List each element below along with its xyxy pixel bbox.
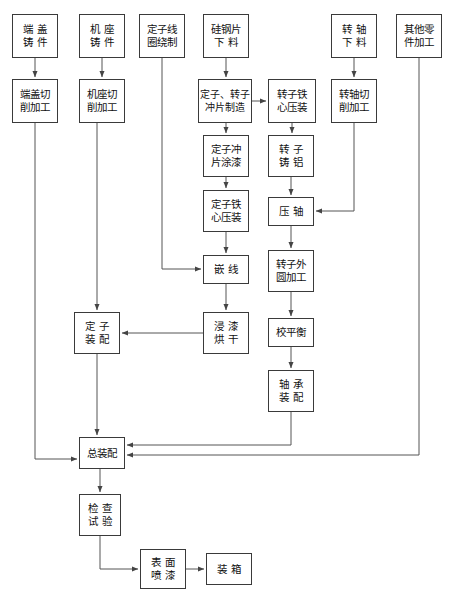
node-jizuo-zhujian[interactable]: 机 座铸 件 — [79, 14, 125, 58]
node-label-line: 试 验 — [88, 515, 112, 528]
node-dingzi-chongpian-tuqi[interactable]: 定子冲片涂漆 — [203, 135, 249, 177]
node-label-line: 圆加工 — [276, 271, 307, 284]
node-label-line: 端 盖 — [23, 23, 47, 36]
node-label-line: 喷 漆 — [151, 569, 175, 582]
node-label-line: 定 子 — [85, 320, 109, 333]
node-dingzi-xianquan-raozhi[interactable]: 定子线圈绕制 — [139, 14, 185, 58]
node-duangai-zhujian[interactable]: 端 盖铸 件 — [12, 14, 58, 58]
node-yazhou[interactable]: 压 轴 — [268, 197, 314, 226]
node-label-line: 装 配 — [279, 391, 303, 404]
node-label-line: 削加工 — [339, 101, 370, 114]
node-label-line: 心压装 — [211, 211, 242, 224]
node-jinqi-honggan[interactable]: 浸 漆烘 干 — [203, 312, 249, 354]
node-jizuo-qiexue-jiagong[interactable]: 机座切削加工 — [79, 79, 125, 123]
node-label-line: 铸 铝 — [279, 156, 303, 169]
node-label-line: 转子铁 — [277, 88, 308, 101]
node-label-line: 定子冲 — [211, 143, 242, 156]
node-label-line: 圈绕制 — [147, 36, 178, 49]
node-biaomian-penqi[interactable]: 表 面喷 漆 — [140, 549, 186, 589]
node-dingzi-tiexin-yazhuang[interactable]: 定子铁心压装 — [203, 190, 249, 232]
edge-n3-n16 — [162, 58, 201, 269]
node-label-line: 下 料 — [342, 36, 366, 49]
node-zhuangxiang[interactable]: 装 箱 — [206, 553, 252, 585]
node-label-line: 转轴切 — [339, 88, 370, 101]
node-label-line: 表 面 — [151, 556, 175, 569]
edge-n7-n22 — [35, 123, 77, 459]
node-label-line: 心压装 — [277, 101, 308, 114]
node-jiancha-shiyan[interactable]: 检 查试 验 — [79, 494, 121, 536]
node-label-line: 机 座 — [90, 23, 114, 36]
node-label-line: 铸 件 — [23, 36, 47, 49]
node-label-line: 转 轴 — [342, 23, 366, 36]
node-label-line: 装 箱 — [217, 563, 241, 576]
node-label-line: 片涂漆 — [211, 156, 242, 169]
node-label-line: 转子外 — [276, 258, 307, 271]
node-label-line: 硅钢片 — [211, 23, 242, 36]
node-label-line: 总装配 — [87, 447, 118, 460]
node-chongpian-zhizao[interactable]: 定子、转子冲片制造 — [198, 79, 252, 123]
node-guigangpian-xialiao[interactable]: 硅钢片下 料 — [203, 14, 249, 58]
node-label-line: 削加工 — [87, 101, 118, 114]
node-label-line: 件加工 — [404, 36, 435, 49]
node-zhuanzi-zhulv[interactable]: 转 子铸 铝 — [268, 135, 314, 177]
node-qita-lingjian-jiagong[interactable]: 其他零件加工 — [396, 14, 442, 58]
node-label-line: 烘 干 — [214, 333, 238, 346]
edge-n11-n15 — [316, 123, 354, 211]
node-label-line: 定子线 — [147, 23, 178, 36]
node-label-line: 校平衡 — [276, 326, 307, 339]
node-label-line: 嵌 线 — [214, 263, 238, 276]
node-zhuanzi-waiyuan-jiagong[interactable]: 转子外圆加工 — [268, 250, 314, 292]
node-label-line: 定子、转子 — [200, 88, 251, 101]
node-label-line: 冲片制造 — [205, 101, 246, 114]
node-zhoucheng-zhuangpei[interactable]: 轴 承装 配 — [268, 370, 314, 412]
node-duangai-qiexue-jiagong[interactable]: 端盖切削加工 — [12, 79, 58, 123]
node-zongzhuangpei[interactable]: 总装配 — [79, 437, 125, 469]
node-zhuanzhou-qiexue-jiagong[interactable]: 转轴切削加工 — [331, 79, 377, 123]
node-label-line: 削加工 — [20, 101, 51, 114]
node-dingzi-zhuangpei[interactable]: 定 子装 配 — [74, 312, 120, 354]
node-jiaopingheng[interactable]: 校平衡 — [268, 318, 314, 347]
node-label-line: 下 料 — [214, 36, 238, 49]
node-label-line: 机座切 — [87, 88, 118, 101]
node-label-line: 转 子 — [279, 143, 303, 156]
flowchart-canvas: 端 盖铸 件 机 座铸 件 定子线圈绕制 硅钢片下 料 转 轴下 料 其他零件加… — [0, 0, 452, 599]
node-zhuanzi-tiexin-yazhuang[interactable]: 转子铁心压装 — [268, 79, 316, 123]
node-label-line: 定子铁 — [211, 198, 242, 211]
node-label-line: 铸 件 — [90, 36, 114, 49]
node-label-line: 其他零 — [404, 23, 435, 36]
edge-n21-n22 — [127, 412, 291, 445]
node-label-line: 端盖切 — [20, 88, 51, 101]
node-label-line: 浸 漆 — [214, 320, 238, 333]
node-label-line: 压 轴 — [279, 205, 303, 218]
node-qianxian[interactable]: 嵌 线 — [203, 255, 249, 284]
edge-n23-n24 — [100, 536, 138, 569]
node-label-line: 轴 承 — [279, 378, 303, 391]
node-label-line: 检 查 — [88, 502, 112, 515]
node-label-line: 装 配 — [85, 333, 109, 346]
node-zhuanzhou-xialiao[interactable]: 转 轴下 料 — [331, 14, 377, 58]
